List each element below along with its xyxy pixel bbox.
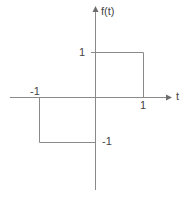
x-axis-arrow-icon: [166, 95, 172, 101]
y-tick-label-positive-one: 1: [79, 46, 85, 58]
x-tick-label-negative-one: -1: [30, 85, 40, 97]
y-axis-arrow-icon: [93, 6, 99, 12]
plot-canvas: [0, 0, 196, 197]
y-axis-label-ft: f(t): [101, 5, 114, 17]
y-tick-label-negative-one: -1: [102, 135, 112, 147]
function-plot-figure: f(t) 1 -1 1 -1 t: [0, 0, 196, 197]
x-tick-label-positive-one: 1: [140, 99, 146, 111]
x-axis-label-t: t: [176, 90, 179, 102]
